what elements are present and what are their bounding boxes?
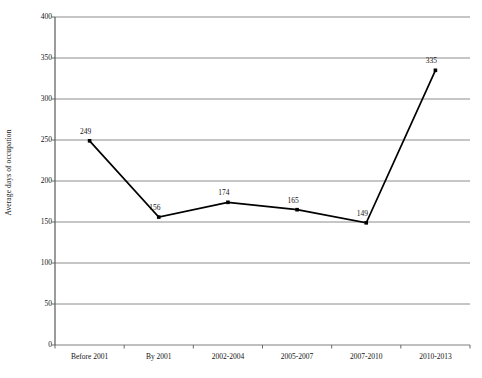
- data-point-label: 165: [287, 197, 298, 205]
- data-point-label: 156: [149, 204, 160, 212]
- y-tick-label: 0: [26, 341, 52, 349]
- x-tick-label: Before 2001: [71, 352, 108, 361]
- x-tick-label: 2010-2013: [419, 352, 452, 361]
- data-point-label: 174: [218, 189, 229, 197]
- data-point-label: 335: [426, 57, 437, 65]
- y-tick-label: 300: [26, 95, 52, 103]
- line-chart: Average days of occupation 0501001502002…: [0, 0, 482, 378]
- y-tick-label: 200: [26, 177, 52, 185]
- y-axis-tick-labels: 050100150200250300350400: [22, 17, 52, 345]
- y-tick-label: 400: [26, 13, 52, 21]
- y-tick-label: 50: [26, 300, 52, 308]
- data-point-label: 249: [80, 128, 91, 136]
- x-tick-label: 2002-2004: [212, 352, 245, 361]
- y-axis-title: Average days of occupation: [0, 0, 18, 345]
- y-tick-label: 100: [26, 259, 52, 267]
- x-axis-tick-labels: Before 2001By 20012002-20042005-20072007…: [55, 352, 470, 370]
- y-axis-title-text: Average days of occupation: [5, 130, 14, 216]
- y-tick-label: 150: [26, 218, 52, 226]
- x-tick-label: 2007-2010: [350, 352, 383, 361]
- data-point-labels: 249156174165149335: [55, 17, 470, 345]
- x-tick-label: 2005-2007: [281, 352, 314, 361]
- data-point-label: 149: [357, 210, 368, 218]
- y-tick-label: 250: [26, 136, 52, 144]
- x-tick-label: By 2001: [146, 352, 172, 361]
- y-tick-label: 350: [26, 54, 52, 62]
